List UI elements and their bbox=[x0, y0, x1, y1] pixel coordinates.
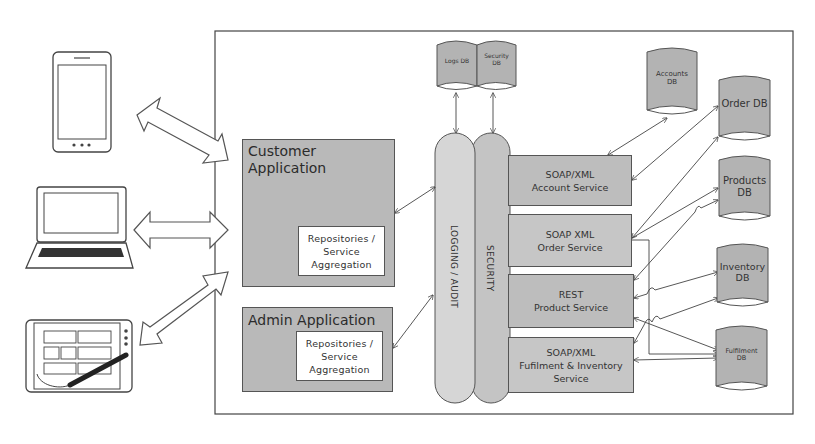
tablet-icon bbox=[26, 320, 132, 392]
accounts-db-label: Accounts DB bbox=[647, 70, 697, 86]
fulfilment-db-label: Fulfilment DB bbox=[716, 348, 767, 363]
security-label: SECURITY bbox=[485, 245, 495, 292]
logs-db-shape bbox=[437, 41, 477, 90]
customer-application-title: Customer Application bbox=[248, 143, 326, 177]
customer-title-line2: Application bbox=[248, 160, 326, 177]
customer-repositories-box: Repositories / Service Aggregation bbox=[298, 226, 385, 276]
inventory-db-label: Inventory DB bbox=[717, 262, 768, 284]
fulfilment-service-box: SOAP/XML Fufilment & Inventory Service bbox=[508, 337, 634, 393]
products-db-label: Products DB bbox=[719, 175, 770, 198]
diagram-canvas bbox=[0, 0, 815, 444]
customer-application-box: Customer Application Repositories / Serv… bbox=[242, 139, 395, 287]
admin-application-title: Admin Application bbox=[248, 312, 375, 329]
logging-audit-label: LOGGING / AUDIT bbox=[449, 225, 459, 308]
order-service-box: SOAP XML Order Service bbox=[508, 214, 632, 267]
smartphone-icon bbox=[53, 52, 111, 152]
admin-repositories-box: Repositories / Service Aggregation bbox=[296, 331, 383, 381]
client-arrows bbox=[134, 98, 228, 345]
security-db-label: Security DB bbox=[477, 53, 516, 67]
logs-db-label: Logs DB bbox=[437, 58, 477, 65]
admin-application-box: Admin Application Repositories / Service… bbox=[242, 307, 393, 392]
account-service-box: SOAP/XML Account Service bbox=[508, 155, 632, 206]
laptop-icon bbox=[26, 187, 133, 268]
customer-title-line1: Customer bbox=[248, 143, 326, 160]
order-db-label: Order DB bbox=[719, 98, 770, 110]
product-service-box: REST Product Service bbox=[508, 274, 634, 328]
